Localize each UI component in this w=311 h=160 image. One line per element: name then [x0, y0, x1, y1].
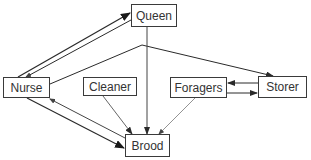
node-brood: Brood [125, 134, 170, 157]
edge-nurse-to-brood [27, 98, 124, 148]
node-nurse: Nurse [3, 77, 50, 98]
edge-foragers-to-brood [159, 98, 195, 134]
edge-nurse-to-queen [18, 13, 130, 77]
node-foragers: Foragers [170, 77, 227, 98]
node-cleaner: Cleaner [83, 77, 137, 96]
edge-queen-to-nurse [26, 20, 131, 77]
node-queen: Queen [131, 4, 177, 27]
node-storer: Storer [258, 76, 307, 98]
edge-brood-to-nurse [50, 99, 125, 138]
